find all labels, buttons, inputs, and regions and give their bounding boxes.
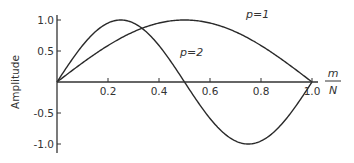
- x-axis-title: m N: [325, 67, 341, 97]
- y-tick-label: -1.0: [34, 138, 55, 150]
- x-tick-label: 0.6: [202, 85, 219, 97]
- x-axis-title-denominator: N: [329, 84, 337, 97]
- y-tick-label: -0.5: [34, 107, 55, 119]
- x-tick-label: 0.8: [253, 85, 270, 97]
- x-tick-label: 0.4: [151, 85, 168, 97]
- axes: [57, 15, 318, 153]
- x-axis-title-numerator: m: [328, 67, 339, 80]
- y-axis-title: Amplitude: [9, 55, 21, 109]
- amplitude-chart: 0.20.40.60.81.0 1.00.5-0.5-1.0 Amplitude…: [0, 0, 354, 163]
- x-tick-label: 0.2: [100, 85, 117, 97]
- y-tick-label: 0.5: [37, 45, 54, 57]
- y-tick-label: 1.0: [37, 14, 54, 26]
- x-ticks: 0.20.40.60.81.0: [100, 78, 321, 97]
- x-tick-label: 1.0: [304, 85, 321, 97]
- series-label-p1: p=1: [245, 8, 269, 21]
- series-label-p2: p=2: [179, 46, 203, 59]
